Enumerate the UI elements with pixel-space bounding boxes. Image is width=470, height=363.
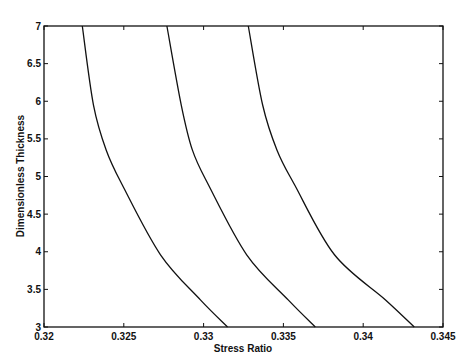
- y-axis-label: Dimensionless Thickness: [15, 114, 26, 237]
- y-tick-label: 7: [35, 21, 41, 32]
- x-tick-label: 0.335: [271, 331, 296, 342]
- y-tick-label: 4: [35, 246, 41, 257]
- y-tick-label: 4.5: [27, 209, 41, 220]
- x-tick-label: 0.34: [353, 331, 373, 342]
- y-tick-label: 6: [35, 96, 41, 107]
- y-tick-label: 3: [35, 322, 41, 333]
- y-tick-label: 6.5: [27, 58, 41, 69]
- x-axis-label: Stress Ratio: [214, 343, 272, 354]
- x-tick-label: 0.325: [111, 331, 136, 342]
- y-tick-label: 5: [35, 171, 41, 182]
- x-tick-label: 0.33: [194, 331, 214, 342]
- y-tick-label: 3.5: [27, 284, 41, 295]
- x-tick-label: 0.32: [34, 331, 54, 342]
- plot-background: [0, 0, 470, 363]
- y-tick-label: 5.5: [27, 133, 41, 144]
- line-chart: 0.320.3250.330.3350.340.34533.544.555.56…: [0, 0, 470, 363]
- x-tick-label: 0.345: [430, 331, 455, 342]
